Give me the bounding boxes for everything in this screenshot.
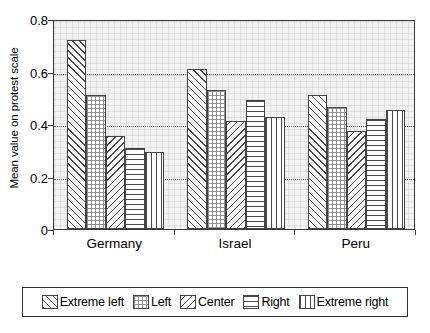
legend-entry-right[interactable]: Right <box>243 295 289 309</box>
legend-entry-extreme-right[interactable]: Extreme right <box>299 295 389 309</box>
legend-swatch-icon <box>133 295 149 309</box>
bar-peru-left <box>327 107 347 229</box>
legend-label: Extreme right <box>317 295 389 309</box>
bar-germany-left <box>86 95 106 229</box>
legend-label: Center <box>198 295 234 309</box>
gridline <box>54 74 414 75</box>
bar-israel-right <box>246 100 266 229</box>
x-tick-label-germany: Germany <box>87 236 143 251</box>
bar-israel-extreme-left <box>187 69 207 229</box>
y-tick-label: 0.2 <box>2 170 48 185</box>
plot-area <box>53 20 415 230</box>
x-tick-label-peru: Peru <box>341 236 370 251</box>
bar-germany-extreme-left <box>67 40 87 229</box>
legend-swatch-icon <box>299 295 315 309</box>
bar-israel-left <box>207 90 227 229</box>
y-axis: 00.20.40.60.8 <box>0 0 48 333</box>
bar-israel-extreme-right <box>265 117 285 229</box>
bar-peru-right <box>366 119 386 229</box>
bar-peru-center <box>347 131 367 229</box>
legend-entry-extreme-left[interactable]: Extreme left <box>42 295 124 309</box>
bar-peru-extreme-right <box>386 110 406 229</box>
legend-entry-left[interactable]: Left <box>133 295 171 309</box>
x-tick-mark <box>294 230 295 235</box>
y-tick-label: 0 <box>2 223 48 238</box>
y-tick-label: 0.4 <box>2 118 48 133</box>
x-tick-mark <box>53 230 54 235</box>
x-tick-label-israel: Israel <box>218 236 251 251</box>
y-tick-label: 0.8 <box>2 13 48 28</box>
legend-label: Extreme left <box>60 295 124 309</box>
bar-germany-extreme-right <box>145 152 165 229</box>
legend-swatch-icon <box>243 295 259 309</box>
bar-peru-extreme-left <box>308 95 328 229</box>
x-tick-mark <box>174 230 175 235</box>
legend-label: Right <box>261 295 289 309</box>
y-tick-label: 0.6 <box>2 65 48 80</box>
bar-chart: Mean value on protest scale 00.20.40.60.… <box>0 0 430 333</box>
bar-israel-center <box>226 121 246 229</box>
chart-legend: Extreme leftLeftCenterRightExtreme right <box>22 287 408 317</box>
legend-entry-center[interactable]: Center <box>180 295 234 309</box>
legend-swatch-icon <box>42 295 58 309</box>
legend-label: Left <box>151 295 171 309</box>
x-tick-mark <box>415 230 416 235</box>
legend-swatch-icon <box>180 295 196 309</box>
bar-germany-right <box>125 148 145 229</box>
bar-germany-center <box>106 136 126 229</box>
